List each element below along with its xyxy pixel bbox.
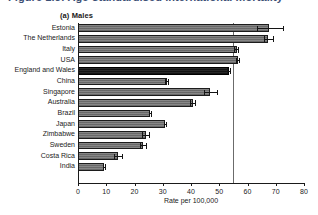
- x-tick: [135, 183, 136, 186]
- bar-row: Zimbabwe: [78, 130, 304, 141]
- chart-plot-area: EstoniaThe NetherlandsItalyUSAEngland an…: [78, 23, 304, 183]
- bar: [78, 24, 269, 32]
- category-label: Sweden: [50, 140, 75, 151]
- bar-row: The Netherlands: [78, 34, 304, 45]
- bar: [78, 56, 238, 64]
- error-bar: [140, 145, 147, 146]
- category-label: Costa Rica: [41, 151, 75, 162]
- bar-row: Japan: [78, 119, 304, 130]
- error-bar: [257, 28, 284, 29]
- bar-row: India: [78, 162, 304, 173]
- error-bar: [165, 81, 169, 82]
- category-label: USA: [61, 55, 75, 66]
- error-bar: [234, 49, 239, 50]
- x-tick-label: 10: [102, 188, 110, 195]
- y-axis-line: [78, 23, 79, 183]
- panel-label: (a) Males: [60, 11, 93, 20]
- category-label: Australia: [48, 97, 75, 108]
- bar-rows: EstoniaThe NetherlandsItalyUSAEngland an…: [78, 23, 304, 172]
- bar: [78, 142, 143, 150]
- bar: [78, 152, 118, 160]
- bar: [78, 88, 210, 96]
- category-label: Zimbabwe: [43, 129, 75, 140]
- bar: [78, 120, 165, 128]
- bar-row: China: [78, 76, 304, 87]
- bar-row: Brazil: [78, 108, 304, 119]
- bar: [78, 35, 268, 43]
- x-tick: [248, 183, 249, 186]
- error-bar: [227, 71, 231, 72]
- bar: [78, 110, 150, 118]
- x-tick: [163, 183, 164, 186]
- figure-title: Figure 1.3: Age-standardised internation…: [8, 0, 310, 5]
- error-bar: [142, 135, 150, 136]
- error-bar: [149, 113, 152, 114]
- error-bar: [204, 92, 218, 93]
- bar-row: Australia: [78, 98, 304, 109]
- x-tick-label: 20: [131, 188, 139, 195]
- error-bar: [190, 103, 196, 104]
- bar-row: USA: [78, 55, 304, 66]
- bar-row: Italy: [78, 44, 304, 55]
- category-label: Singapore: [43, 87, 75, 98]
- x-tick-label: 30: [159, 188, 167, 195]
- bar: [78, 99, 193, 107]
- category-label: Italy: [62, 44, 75, 55]
- x-tick: [106, 183, 107, 186]
- bar-row: Sweden: [78, 140, 304, 151]
- bar-row: Estonia: [78, 23, 304, 34]
- x-tick-label: 80: [300, 188, 308, 195]
- x-tick-label: 70: [272, 188, 280, 195]
- category-label: Brazil: [57, 108, 75, 119]
- x-tick: [276, 183, 277, 186]
- bar: [78, 46, 237, 54]
- bar: [78, 131, 146, 139]
- error-bar: [236, 60, 240, 61]
- x-tick-label: 60: [244, 188, 252, 195]
- category-label: Japan: [56, 119, 75, 130]
- bar: [78, 78, 167, 86]
- bar: [78, 163, 104, 171]
- x-tick: [304, 183, 305, 186]
- bar-row: Singapore: [78, 87, 304, 98]
- bar: [78, 67, 229, 75]
- bar-row: Costa Rica: [78, 151, 304, 162]
- error-bar: [114, 156, 124, 157]
- x-tick: [191, 183, 192, 186]
- error-bar: [164, 124, 168, 125]
- error-bar: [264, 39, 275, 40]
- x-tick-label: 40: [187, 188, 195, 195]
- x-tick: [78, 183, 79, 186]
- error-bar: [103, 167, 106, 168]
- x-tick: [219, 183, 220, 186]
- bar-row: England and Wales: [78, 66, 304, 77]
- category-label: The Netherlands: [23, 33, 75, 44]
- x-tick-label: 0: [76, 188, 80, 195]
- category-label: Estonia: [52, 23, 75, 34]
- x-tick-label: 50: [215, 188, 223, 195]
- category-label: England and Wales: [15, 65, 75, 76]
- category-label: India: [60, 161, 75, 172]
- x-axis-title: Rate per 100,000: [78, 197, 304, 204]
- category-label: China: [57, 76, 75, 87]
